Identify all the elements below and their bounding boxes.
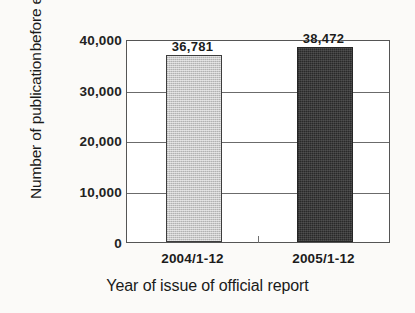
x-tick-label-2005: 2005/1-12 [292, 251, 355, 266]
y-axis-tick-labels: 40,000 30,000 20,000 10,000 0 [40, 0, 122, 313]
baseline-center-tick [258, 236, 259, 243]
bar-2004 [166, 55, 222, 242]
bar-value-label-2004: 36,781 [172, 39, 214, 54]
bar-2005 [297, 47, 353, 242]
y-tick-label-30000: 30,000 [40, 84, 122, 99]
y-tick-label-10000: 10,000 [40, 185, 122, 200]
bar-chart-figure: Number of publication before examination… [0, 0, 415, 313]
y-tick-label-20000: 20,000 [40, 134, 122, 149]
x-axis-title: Year of issue of official report [0, 277, 415, 295]
plot-area [126, 40, 390, 243]
y-tick-label-40000: 40,000 [40, 33, 122, 48]
x-tick-label-2004: 2004/1-12 [161, 251, 224, 266]
y-tick-label-0: 0 [40, 236, 122, 251]
bar-value-label-2005: 38,472 [303, 31, 345, 46]
